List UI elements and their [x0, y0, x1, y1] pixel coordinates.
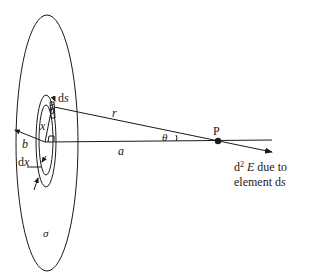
dx-arrow-bottom	[34, 178, 38, 190]
label-a: a	[118, 144, 124, 158]
label-P: P	[213, 124, 220, 138]
label-r: r	[112, 106, 117, 120]
label-ds: ds	[58, 91, 69, 105]
label-field-line2: element ds	[234, 175, 286, 189]
theta-arc	[176, 135, 177, 141]
axis-line-a	[45, 140, 272, 142]
label-dx: dx	[18, 155, 30, 169]
label-sigma: σ	[43, 227, 49, 239]
label-field-line1: d2 E due to	[234, 160, 287, 174]
point-P	[215, 138, 221, 144]
label-b: b	[22, 137, 28, 151]
dx-arrow-top	[42, 156, 46, 162]
line-r	[54, 107, 272, 152]
label-x: x	[39, 119, 46, 133]
ds-arrow	[53, 96, 55, 101]
label-theta: θ	[162, 131, 168, 143]
disc-field-diagram: ds r x b a θ dx σ P d2 E due to element …	[0, 0, 310, 279]
